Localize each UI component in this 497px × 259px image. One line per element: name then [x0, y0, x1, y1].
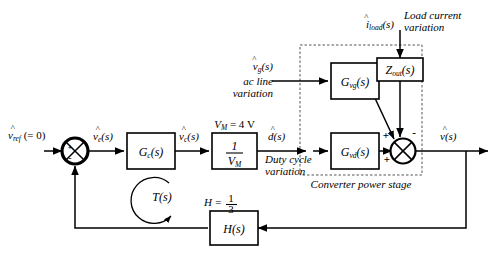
output-summer-plus-gvg: + [383, 129, 389, 141]
label-acline-caption-line2: variation [233, 87, 274, 99]
label-acline-caption-line1: ac line [243, 75, 273, 87]
block-diagram-canvas: Gc(s) 1 VM VM = 4 V Gvg(s) Gvd(s) Zout(s… [0, 0, 497, 259]
diagram-svg: Gc(s) 1 VM VM = 4 V Gvg(s) Gvd(s) Zout(s… [0, 0, 497, 259]
pwm-above-label: VM = 4 V [214, 118, 255, 132]
sensor-above-label: H = [203, 196, 222, 208]
output-summer-minus-zout: - [412, 126, 416, 138]
label-power-stage-caption: Converter power stage [311, 178, 412, 190]
label-loadcurrent-caption-line2: variation [404, 21, 445, 33]
block-compensator-label: Gc(s) [139, 145, 164, 160]
label-duty-caption-line2: variation [265, 165, 306, 177]
label-loadcurrent-signal: iload(s) [366, 18, 394, 32]
input-summer-minus-sign: - [69, 153, 72, 163]
block-sensor-label: H(s) [222, 222, 244, 236]
error-hat-accent: ^ [96, 124, 101, 134]
label-loadcurrent-caption-line1: Load current [403, 9, 462, 21]
reference-hat-accent: ^ [11, 123, 16, 133]
label-loop-gain: T(s) [152, 190, 171, 204]
control-hat-accent: ^ [182, 124, 187, 134]
sensor-above-den: 3 [228, 203, 234, 215]
label-duty-caption-line1: Duty cycle [264, 153, 312, 165]
input-summer-plus-sign: + [68, 143, 73, 152]
wire-hs-to-summer [75, 166, 208, 228]
output-summer-plus-gvd: + [384, 153, 390, 165]
label-acline-signal: vg(s) [253, 60, 274, 74]
block-pwm-numerator: 1 [232, 139, 238, 153]
